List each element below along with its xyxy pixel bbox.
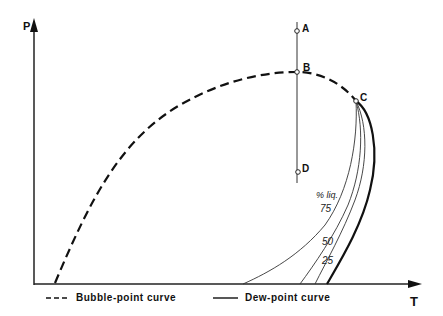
quality-75-label: 75 — [320, 203, 331, 214]
point-a-marker — [295, 29, 300, 34]
point-a-label: A — [302, 23, 309, 34]
p-axis-arrow-icon — [30, 18, 38, 32]
t-axis-arrow-icon — [408, 280, 422, 288]
quality-header-label: % liq. — [316, 190, 338, 200]
t-axis-label: T — [410, 294, 418, 309]
point-b-label: B — [303, 62, 310, 73]
bubble-point-curve — [55, 72, 356, 283]
point-c-marker — [354, 99, 359, 104]
phase-diagram — [0, 0, 443, 316]
point-d-marker — [296, 170, 301, 175]
quality-25-label: 25 — [322, 255, 333, 266]
quality-50-label: 50 — [322, 236, 333, 247]
quality-line-75 — [243, 101, 356, 284]
legend-bubble-label: Bubble-point curve — [76, 292, 176, 303]
point-d-label: D — [302, 163, 309, 174]
point-c-label: C — [360, 92, 367, 103]
legend-dew-label: Dew-point curve — [245, 292, 330, 303]
p-axis-label: P — [23, 20, 30, 32]
point-b-marker — [295, 70, 300, 75]
